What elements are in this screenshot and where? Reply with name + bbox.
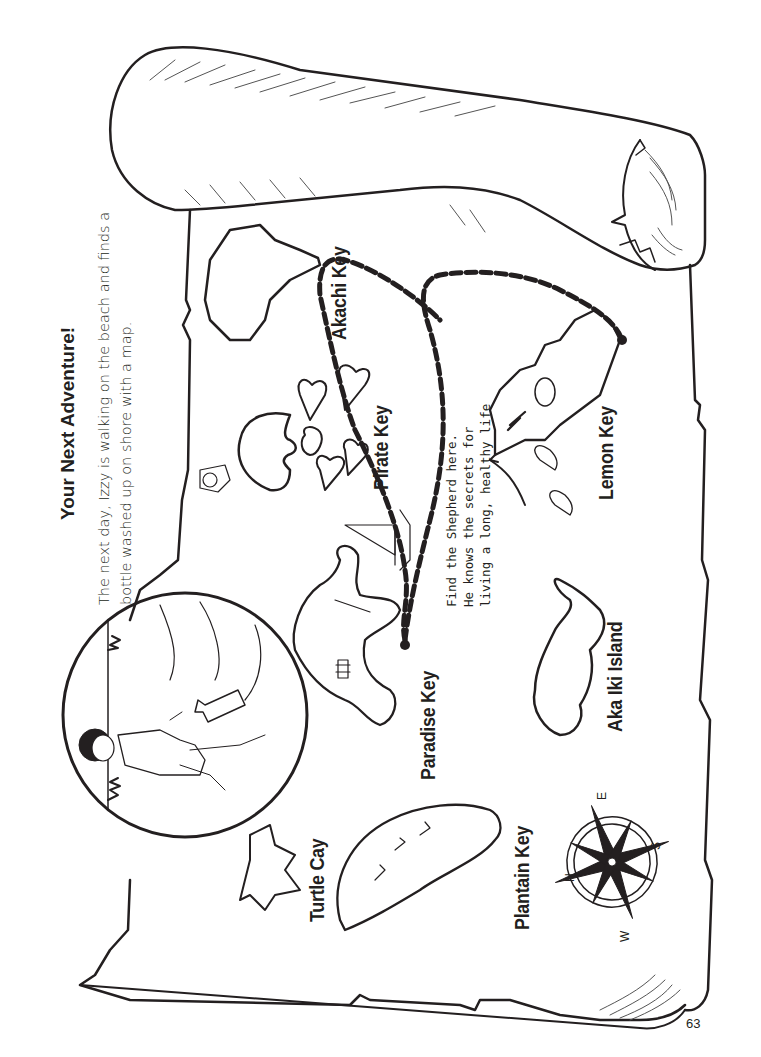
label-akachi-key: Akachi Key [327,246,351,340]
route-start-dot [400,640,410,650]
pirate-ship-drawing [200,465,230,492]
page-number: 63 [686,1016,700,1031]
island-paradise-key-outline [294,546,400,725]
island-aka-iki-outline [534,579,604,735]
label-aka-iki-island: Aka Iki Island [603,621,627,732]
shepherd-note-line-3: living a long, healthy life [477,404,494,607]
scroll-top-hatching [150,60,682,255]
dolphins-drawing [535,446,572,515]
shepherd-note-line-2: He knows the secrets for [460,404,477,607]
lighthouse-drawing [336,660,350,678]
route-dashed-path-main [405,272,622,640]
island-plantain-key-outline [337,805,500,930]
scroll-top-roll [110,47,705,270]
compass-south-label: S [649,842,663,850]
intro-line-1: The next day, Izzy is walking on the bea… [93,212,115,605]
compass-west-label: W [618,931,632,942]
izzy-beach-vignette [63,593,307,837]
label-turtle-cay: Turtle Cay [305,839,329,922]
island-turtle-cay-outline [240,825,300,910]
arrow-to-lemon-key [490,460,525,505]
compass-rose [535,785,689,939]
compass-north-label: N [563,873,577,882]
label-paradise-key: Paradise Key [416,671,440,780]
shepherd-note-line-1: Find the Shepherd here. [443,404,460,607]
shepherd-note: Find the Shepherd here. He knows the sec… [443,404,494,607]
island-akachi-key-outline [205,225,320,340]
label-lemon-key: Lemon Key [594,406,618,500]
compass-east-label: E [595,792,609,800]
island-pirate-key-shapes [239,365,369,490]
page-title: Your Next Adventure! [57,327,79,520]
scroll-bottom-curl-hatching [600,975,680,1020]
intro-text: The next day, Izzy is walking on the bea… [93,212,137,605]
intro-line-2: bottle washed up on shore with a map. [115,212,137,605]
label-plantain-key: Plantain Key [510,826,534,930]
label-pirate-key: Pirate Key [369,405,393,490]
